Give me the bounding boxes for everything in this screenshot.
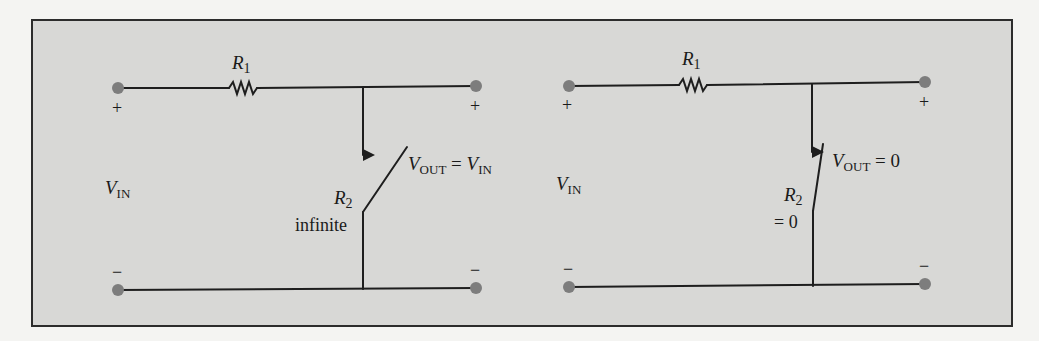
output-minus-sign: − [470, 260, 480, 280]
voltage-divider-switch-figure: + − + − R1 VIN R2 infinite VOUT = VIN [0, 0, 1039, 341]
terminal-out-minus [470, 282, 482, 294]
terminal-out-plus [470, 80, 482, 92]
terminal-out-plus [919, 76, 931, 88]
input-minus-sign: − [112, 262, 122, 282]
terminal-in-minus [563, 281, 575, 293]
terminal-in-plus [112, 82, 124, 94]
output-plus-sign: + [919, 92, 929, 112]
input-minus-sign: − [563, 259, 573, 279]
terminal-out-minus [919, 278, 931, 290]
input-plus-sign: + [562, 95, 572, 115]
resistor-r2-value: = 0 [774, 212, 798, 232]
top-wire-left-segment [569, 85, 679, 86]
output-minus-sign: − [919, 256, 929, 276]
terminal-in-minus [112, 284, 124, 296]
terminal-in-plus [563, 80, 575, 92]
input-plus-sign: + [112, 98, 122, 118]
resistor-r2-value: infinite [295, 215, 347, 235]
output-plus-sign: + [470, 96, 480, 116]
